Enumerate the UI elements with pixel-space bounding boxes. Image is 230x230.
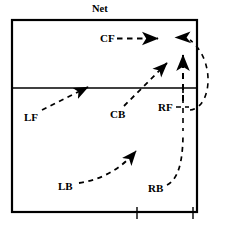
net-label: Net — [92, 4, 108, 15]
position-label-lb: LB — [58, 181, 73, 192]
lb-arrow — [79, 151, 136, 183]
rb-path — [167, 133, 183, 185]
position-label-cb: CB — [110, 109, 125, 120]
position-label-lf: LF — [24, 112, 38, 123]
court-diagram: Net CF LF CB RF LB RB — [0, 0, 230, 230]
position-label-cf: CF — [100, 33, 115, 44]
net-corner-arrow-left-icon — [175, 32, 192, 44]
lf-arrow — [42, 87, 88, 110]
return-arc-dashed — [190, 40, 208, 110]
cb-arrow — [124, 63, 167, 106]
position-label-rb: RB — [148, 183, 163, 194]
position-label-rf: RF — [158, 102, 173, 113]
